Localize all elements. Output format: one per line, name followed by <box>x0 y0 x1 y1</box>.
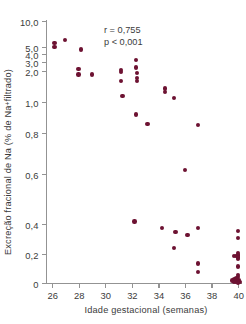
data-point <box>63 38 67 42</box>
x-tick: 36 <box>185 283 186 288</box>
scatter-plot-figure: Excreção fracional de Na (% de Na+ filtr… <box>0 0 246 324</box>
y-tick: 0,8 <box>42 133 47 134</box>
y-tick-label: 0 <box>33 278 38 289</box>
x-axis-title: Idade gestacional (semanas) <box>46 305 246 315</box>
y-tick-label: 0,4 <box>25 219 38 230</box>
x-tick-label: 34 <box>154 290 164 301</box>
plot-area: 00,20,40,60,81,02,03,04,05,010,0 2628303… <box>46 20 242 284</box>
correlation-coefficient: r = 0,755 <box>104 24 143 36</box>
y-tick-label: 0,8 <box>25 128 38 139</box>
x-tick: 34 <box>158 283 159 288</box>
data-point <box>196 123 200 127</box>
data-point <box>236 257 240 261</box>
x-tick-label: 30 <box>101 290 111 301</box>
x-tick-label: 40 <box>233 290 243 301</box>
x-tick-label: 28 <box>74 290 84 301</box>
data-point <box>76 72 80 76</box>
data-point <box>185 233 189 237</box>
y-tick-label: 1,0 <box>25 97 38 108</box>
data-point <box>236 229 240 233</box>
y-tick-label: 5,0 <box>25 42 38 53</box>
data-point <box>119 70 123 74</box>
y-tick: 10,0 <box>42 21 47 22</box>
x-tick-label: 36 <box>180 290 190 301</box>
data-point <box>79 47 83 51</box>
data-point <box>172 246 176 250</box>
data-point <box>132 219 136 223</box>
x-tick-label: 38 <box>207 290 217 301</box>
y-tick-label: 10,0 <box>20 16 39 27</box>
y-axis-title: Excreção fracional de Na (% de Na+ filtr… <box>0 0 16 324</box>
y-tick: 0,4 <box>42 224 47 225</box>
y-tick: 1,0 <box>42 102 47 103</box>
y-axis-title-prefix: Excreção fracional de Na (% de Na <box>3 105 13 255</box>
data-point <box>160 226 164 230</box>
x-tick-label: 26 <box>47 290 57 301</box>
data-point <box>135 71 139 75</box>
data-point <box>134 58 138 62</box>
x-tick: 28 <box>79 283 80 288</box>
x-tick-label: 32 <box>127 290 137 301</box>
y-tick: 0,2 <box>42 254 47 255</box>
data-point <box>196 226 200 230</box>
y-tick: 3,0 <box>42 62 47 63</box>
data-point <box>183 168 187 172</box>
data-point <box>134 65 138 69</box>
data-point <box>134 112 138 116</box>
y-tick-label: 0,2 <box>25 249 38 260</box>
y-tick: 2,0 <box>42 71 47 72</box>
data-point <box>76 67 80 71</box>
data-point <box>145 122 149 126</box>
data-point <box>120 94 124 98</box>
y-axis-title-suffix: filtrado) <box>3 69 13 101</box>
data-point <box>236 236 240 240</box>
x-tick: 38 <box>211 283 212 288</box>
data-point <box>173 230 177 234</box>
p-value: p < 0,001 <box>104 36 143 48</box>
y-tick: 5,0 <box>42 47 47 48</box>
data-point <box>163 90 167 94</box>
y-tick: 0,6 <box>42 174 47 175</box>
data-point <box>135 79 139 83</box>
data-point <box>196 270 200 274</box>
data-point <box>119 79 123 83</box>
y-tick: 0 <box>42 283 47 284</box>
data-point <box>90 72 94 76</box>
y-axis-line <box>46 20 47 284</box>
data-point <box>236 264 240 268</box>
y-tick: 4,0 <box>42 54 47 55</box>
x-tick: 32 <box>132 283 133 288</box>
data-point <box>236 280 240 284</box>
data-point <box>196 261 200 265</box>
data-point <box>52 45 56 49</box>
statistics-annotation: r = 0,755 p < 0,001 <box>104 24 143 49</box>
data-point <box>172 96 176 100</box>
y-tick-label: 0,6 <box>25 169 38 180</box>
x-tick: 30 <box>105 283 106 288</box>
x-tick: 26 <box>52 283 53 288</box>
